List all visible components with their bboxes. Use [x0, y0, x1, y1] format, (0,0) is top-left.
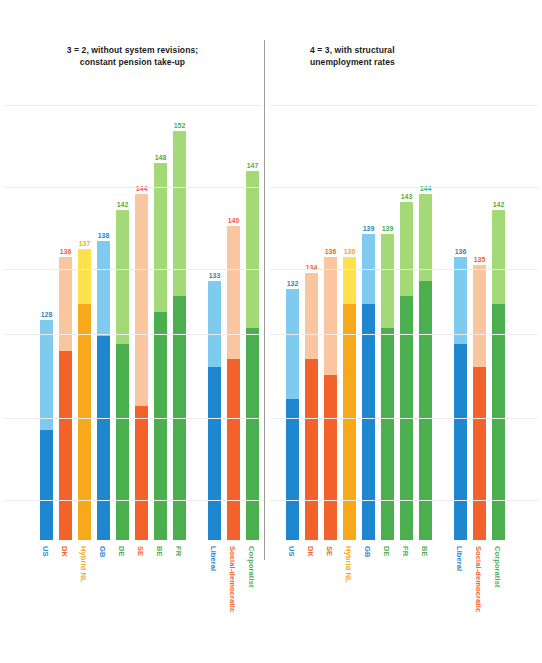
- bar-segment-upper: [381, 234, 394, 328]
- x-tick-label-se: SE: [136, 546, 145, 556]
- bar-body: 144: [419, 194, 432, 540]
- gridline: [4, 334, 261, 335]
- bar-segment-lower: [208, 367, 221, 540]
- x-tick-label-dk: DK: [306, 546, 315, 557]
- gridline: [4, 500, 261, 501]
- bar-segment-upper: [324, 257, 337, 375]
- gridline: [4, 269, 261, 270]
- bar-segment-lower: [59, 351, 72, 540]
- panel-right-plot-area: 132134136136139139143144136135142: [266, 100, 542, 540]
- x-tick-label-hybrid-nl: Hybrid NL: [79, 546, 88, 583]
- bar-value-label: 139: [363, 225, 374, 232]
- bar-value-label: 147: [247, 162, 258, 169]
- x-tick-label-de: DE: [382, 546, 391, 557]
- bar-segment-upper: [59, 257, 72, 351]
- x-tick-label-hybrid-nl: Hybrid NL: [344, 546, 353, 583]
- bar-value-label: 135: [474, 256, 485, 263]
- panel-right-title: 4 = 3, with structural unemployment rate…: [266, 44, 542, 68]
- bar-segment-upper: [173, 131, 186, 296]
- chart-figure: 3 = 2, without system revisions; constan…: [0, 0, 542, 663]
- bar-segment-upper: [227, 226, 240, 360]
- bar-body: 136: [324, 257, 337, 540]
- bar-body: 138: [97, 241, 110, 540]
- bar-segment-lower: [97, 336, 110, 540]
- bar-value-label: 140: [228, 217, 239, 224]
- x-tick-label-be: BE: [155, 546, 164, 557]
- gridline: [4, 418, 261, 419]
- x-tick-label-liberal: Liberal: [209, 546, 218, 571]
- bar-body: 136: [343, 257, 356, 540]
- bar-body: 148: [154, 163, 167, 540]
- bar-value-label: 136: [455, 248, 466, 255]
- gridline: [4, 187, 261, 188]
- panel-right-bars: 132134136136139139143144136135142: [266, 100, 542, 540]
- bar-segment-upper: [400, 202, 413, 296]
- x-tick-label-gb: GB: [98, 546, 107, 557]
- x-tick-label-dk: DK: [60, 546, 69, 557]
- panel-left-title: 3 = 2, without system revisions; constan…: [0, 44, 265, 68]
- gridline: [270, 334, 538, 335]
- bar-body: 128: [40, 320, 53, 540]
- gridline: [4, 105, 261, 106]
- bar-segment-upper: [454, 257, 467, 343]
- bar-segment-lower: [305, 359, 318, 540]
- x-tick-label-liberal: Liberal: [455, 546, 464, 571]
- bar-value-label: 136: [344, 248, 355, 255]
- bar-segment-lower: [343, 304, 356, 540]
- bar-segment-lower: [40, 430, 53, 540]
- bar-body: 143: [400, 202, 413, 540]
- bar-body: 136: [454, 257, 467, 540]
- bar-value-label: 139: [382, 225, 393, 232]
- chart-panel-left: 3 = 2, without system revisions; constan…: [0, 0, 265, 663]
- x-tick-label-social-democratic: Social-democratic: [228, 546, 237, 612]
- bar-segment-upper: [97, 241, 110, 335]
- bar-segment-upper: [305, 273, 318, 359]
- bar-segment-lower: [246, 328, 259, 540]
- bar-segment-lower: [116, 344, 129, 540]
- bar-body: 136: [59, 257, 72, 540]
- bar-segment-lower: [227, 359, 240, 540]
- bar-body: 137: [78, 249, 91, 540]
- chart-panel-right: 4 = 3, with structural unemployment rate…: [266, 0, 542, 663]
- panel-left-plot-area: 128136137138142144148152133140147: [0, 100, 265, 540]
- bar-value-label: 136: [325, 248, 336, 255]
- bar-body: 142: [492, 210, 505, 540]
- bar-segment-upper: [419, 194, 432, 280]
- bar-segment-lower: [154, 312, 167, 540]
- bar-segment-lower: [381, 328, 394, 540]
- bar-value-label: 132: [287, 280, 298, 287]
- x-tick-label-corporatist: Corporatist: [493, 546, 502, 588]
- x-tick-label-gb: GB: [363, 546, 372, 557]
- bar-segment-lower: [492, 304, 505, 540]
- bar-segment-upper: [154, 163, 167, 312]
- bar-body: 135: [473, 265, 486, 540]
- bar-body: 142: [116, 210, 129, 540]
- bar-segment-upper: [492, 210, 505, 304]
- gridline: [270, 105, 538, 106]
- bar-value-label: 138: [98, 232, 109, 239]
- bar-value-label: 143: [401, 193, 412, 200]
- bar-value-label: 133: [209, 272, 220, 279]
- x-tick-label-de: DE: [117, 546, 126, 557]
- bar-segment-lower: [324, 375, 337, 540]
- bar-segment-upper: [135, 194, 148, 406]
- bar-segment-upper: [246, 171, 259, 328]
- gridline: [270, 187, 538, 188]
- bar-value-label: 137: [79, 240, 90, 247]
- bar-value-label: 142: [493, 201, 504, 208]
- x-tick-label-fr: FR: [401, 546, 410, 556]
- bar-segment-lower: [135, 406, 148, 540]
- x-tick-label-us: US: [287, 546, 296, 557]
- x-tick-label-se: SE: [325, 546, 334, 556]
- bar-body: 132: [286, 289, 299, 540]
- bar-segment-upper: [343, 257, 356, 304]
- x-tick-label-social-democratic: Social-democratic: [474, 546, 483, 612]
- gridline: [270, 269, 538, 270]
- bar-segment-upper: [78, 249, 91, 304]
- bar-body: 133: [208, 281, 221, 540]
- bar-body: 140: [227, 226, 240, 540]
- x-tick-label-us: US: [41, 546, 50, 557]
- bar-segment-upper: [208, 281, 221, 367]
- x-tick-label-fr: FR: [174, 546, 183, 556]
- bar-segment-upper: [116, 210, 129, 344]
